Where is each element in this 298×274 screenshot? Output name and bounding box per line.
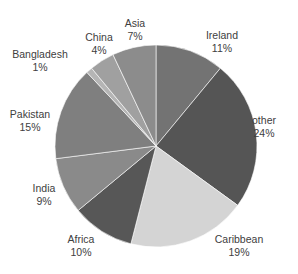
slice-percent: 1%	[12, 60, 67, 73]
slice-label-india: India9%	[33, 182, 56, 207]
slice-label-other: other24%	[252, 114, 276, 139]
slice-percent: 10%	[68, 245, 95, 258]
slice-percent: 24%	[252, 126, 276, 139]
slice-label-africa: Africa10%	[68, 233, 95, 258]
slice-category: Bangladesh	[12, 48, 67, 61]
slice-percent: 19%	[215, 245, 263, 258]
slice-label-bangladesh: Bangladesh1%	[12, 48, 67, 73]
slice-percent: 11%	[206, 41, 238, 54]
slice-percent: 4%	[85, 43, 112, 56]
slice-percent: 15%	[10, 120, 50, 133]
slice-label-caribbean: Caribbean19%	[215, 233, 263, 258]
slice-label-pakistan: Pakistan15%	[10, 108, 50, 133]
slice-label-asia: Asia7%	[125, 17, 145, 42]
slice-percent: 7%	[125, 29, 145, 42]
slice-label-china: China4%	[85, 31, 112, 56]
slice-percent: 9%	[33, 194, 56, 207]
slice-label-ireland: Ireland11%	[206, 29, 238, 54]
slice-category: Asia	[125, 17, 145, 30]
slice-category: other	[252, 114, 276, 127]
slice-category: Africa	[68, 233, 95, 246]
slice-category: India	[33, 182, 56, 195]
slice-category: China	[85, 31, 112, 44]
slice-category: Pakistan	[10, 108, 50, 121]
slice-category: Caribbean	[215, 233, 263, 246]
slice-category: Ireland	[206, 29, 238, 42]
